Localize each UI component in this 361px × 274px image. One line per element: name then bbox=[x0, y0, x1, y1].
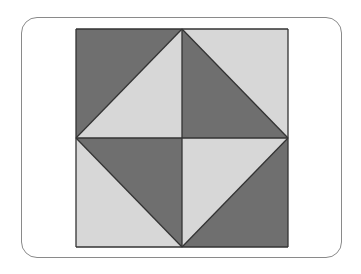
quilt-diagram bbox=[0, 0, 361, 274]
